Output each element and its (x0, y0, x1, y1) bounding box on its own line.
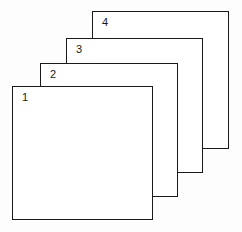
layer-panel-label: 3 (76, 43, 82, 56)
stacked-layers-diagram: 4 3 2 1 (0, 0, 242, 232)
layer-panel-label: 2 (50, 68, 56, 81)
layer-panel-1[interactable]: 1 (12, 86, 153, 220)
layer-panel-label: 4 (102, 16, 108, 29)
layer-panel-label: 1 (22, 91, 28, 104)
